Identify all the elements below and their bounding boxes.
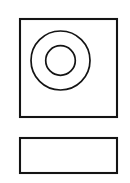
outer-circle[interactable] — [31, 31, 90, 90]
inner-circle[interactable] — [46, 46, 76, 76]
side-view-rectangle[interactable] — [20, 138, 117, 173]
front-view-square[interactable] — [20, 19, 117, 117]
drawing-surface[interactable] — [0, 0, 130, 183]
technical-drawing-canvas[interactable] — [0, 0, 130, 183]
